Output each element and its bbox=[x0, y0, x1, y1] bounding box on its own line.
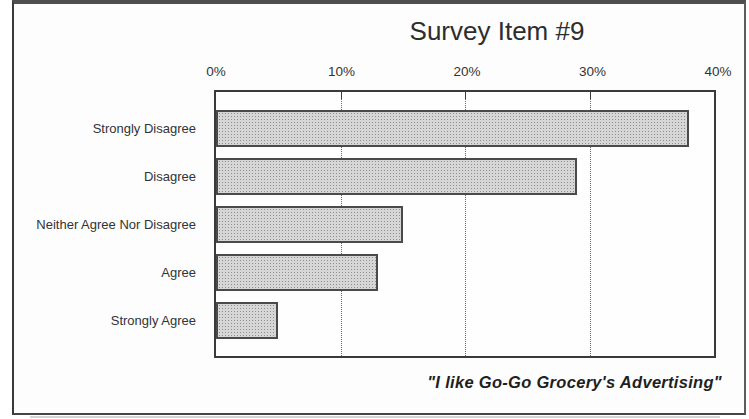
x-tick-label: 40% bbox=[704, 64, 731, 79]
chart-caption: "I like Go-Go Grocery's Advertising" bbox=[427, 373, 722, 392]
plot-area bbox=[214, 90, 716, 358]
bar-neither-agree-nor-disagree bbox=[216, 206, 403, 243]
scan-artifact bbox=[30, 416, 720, 418]
bar-strongly-disagree bbox=[216, 110, 689, 147]
axis-tick bbox=[465, 92, 466, 99]
category-label-strongly-disagree: Strongly Disagree bbox=[14, 121, 196, 137]
x-tick-label: 0% bbox=[206, 64, 226, 79]
x-axis: 0%10%20%30%40% bbox=[216, 64, 718, 81]
bar-disagree bbox=[216, 158, 577, 195]
category-label-strongly-agree: Strongly Agree bbox=[14, 313, 196, 329]
bar-agree bbox=[216, 254, 378, 291]
scanned-page: Survey Item #9 0%10%20%30%40% Strongly D… bbox=[0, 0, 749, 419]
bar-strongly-agree bbox=[216, 302, 278, 339]
x-tick-label: 20% bbox=[453, 64, 480, 79]
category-label-neither-agree-nor-disagree: Neither Agree Nor Disagree bbox=[14, 217, 196, 233]
axis-tick bbox=[341, 92, 342, 99]
category-label-disagree: Disagree bbox=[14, 169, 196, 185]
x-tick-label: 30% bbox=[579, 64, 606, 79]
chart-title: Survey Item #9 bbox=[410, 16, 585, 47]
x-tick-label: 10% bbox=[328, 64, 355, 79]
axis-tick bbox=[590, 92, 591, 99]
figure-frame: Survey Item #9 0%10%20%30%40% Strongly D… bbox=[12, 0, 746, 415]
category-label-agree: Agree bbox=[14, 265, 196, 281]
